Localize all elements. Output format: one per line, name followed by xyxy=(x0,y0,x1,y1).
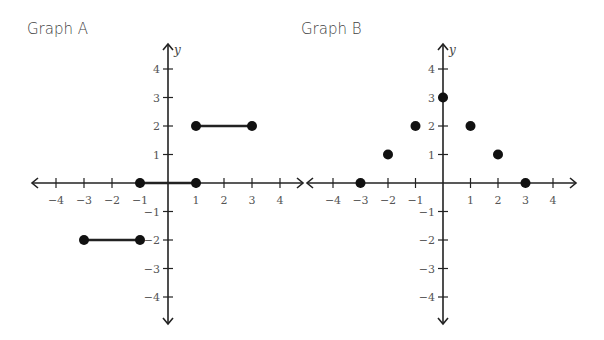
y-tick-label: 2 xyxy=(153,120,160,133)
y-tick-label: −4 xyxy=(419,291,435,304)
y-tick-label: 4 xyxy=(428,63,435,76)
data-point xyxy=(466,121,476,131)
data-point xyxy=(411,121,421,131)
y-tick-label: 1 xyxy=(153,149,160,162)
y-tick-label: −2 xyxy=(144,234,160,247)
y-tick-label: 4 xyxy=(153,63,160,76)
data-point xyxy=(135,178,145,188)
data-point xyxy=(79,235,89,245)
y-axis-label: y xyxy=(448,43,456,57)
x-tick-label: 3 xyxy=(249,194,256,207)
y-tick-label: 1 xyxy=(428,149,435,162)
graph-b: y−4−3−2−11234−4−3−2−11234 xyxy=(307,43,576,324)
x-tick-label: −2 xyxy=(380,194,396,207)
y-axis-label: y xyxy=(173,43,181,57)
y-tick-label: −4 xyxy=(144,291,160,304)
y-tick-label: −1 xyxy=(419,206,435,219)
data-point xyxy=(191,121,201,131)
data-point xyxy=(383,150,393,160)
x-tick-label: 3 xyxy=(522,194,529,207)
x-tick-label: 1 xyxy=(467,194,474,207)
data-point xyxy=(247,121,257,131)
x-tick-label: −4 xyxy=(325,194,341,207)
y-tick-label: −2 xyxy=(419,234,435,247)
x-tick-label: −3 xyxy=(76,194,92,207)
data-point xyxy=(356,178,366,188)
data-point xyxy=(135,235,145,245)
x-tick-label: 2 xyxy=(221,194,228,207)
graph-a: y−4−3−2−11234−4−3−2−11234 xyxy=(32,43,303,324)
y-tick-label: 3 xyxy=(428,92,435,105)
x-tick-label: −3 xyxy=(352,194,368,207)
y-tick-label: −3 xyxy=(144,263,160,276)
y-tick-label: 3 xyxy=(153,92,160,105)
y-tick-label: −3 xyxy=(419,263,435,276)
data-point xyxy=(438,93,448,103)
x-tick-label: 4 xyxy=(277,194,284,207)
x-tick-label: 1 xyxy=(193,194,200,207)
x-tick-label: 2 xyxy=(495,194,502,207)
x-tick-label: −2 xyxy=(104,194,120,207)
x-tick-label: 4 xyxy=(550,194,557,207)
x-tick-label: −4 xyxy=(48,194,64,207)
data-point xyxy=(521,178,531,188)
y-tick-label: 2 xyxy=(428,120,435,133)
plots-canvas: y−4−3−2−11234−4−3−2−11234y−4−3−2−11234−4… xyxy=(0,0,604,340)
data-point xyxy=(191,178,201,188)
y-tick-label: −1 xyxy=(144,206,160,219)
data-point xyxy=(493,150,503,160)
